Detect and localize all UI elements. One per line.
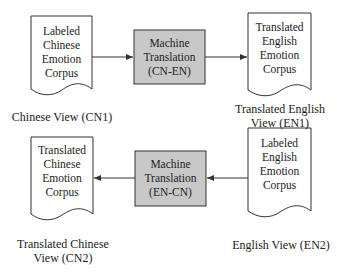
- node-text-line: Emotion: [31, 52, 92, 66]
- node-text-line: Emotion: [31, 171, 93, 185]
- node-text-line: Emotion: [248, 48, 311, 62]
- node-text-line: Labeled: [248, 136, 311, 150]
- caption-translated-chinese-view-cn2: Translated Chinese View (CN2): [4, 237, 122, 265]
- node-text-line: Corpus: [248, 62, 311, 76]
- caption-english-view-en2: English View (EN2): [226, 238, 336, 252]
- node-text-line: Corpus: [31, 66, 92, 80]
- node-text-line: Emotion: [248, 164, 311, 178]
- node-machine-translation-en-cn: Machine Translation (EN-CN): [135, 157, 206, 199]
- node-labeled-english-corpus: Labeled English Emotion Corpus: [248, 136, 311, 192]
- node-text-line: Translated: [31, 143, 93, 157]
- node-labeled-chinese-corpus: Labeled Chinese Emotion Corpus: [31, 24, 92, 80]
- node-text-line: Translation: [135, 171, 206, 185]
- node-translated-english-corpus: Translated English Emotion Corpus: [248, 20, 311, 76]
- caption-line: View (CN2): [4, 251, 122, 265]
- node-text-line: Machine: [135, 157, 206, 171]
- node-machine-translation-cn-en: Machine Translation (CN-EN): [134, 36, 205, 78]
- node-text-line: Translation: [134, 50, 205, 64]
- node-text-line: Chinese: [31, 157, 93, 171]
- caption-line: Chinese View (CN1): [0, 110, 124, 124]
- caption-line: Translated English: [224, 102, 336, 116]
- caption-line: English View (EN2): [226, 238, 336, 252]
- caption-line: Translated Chinese: [4, 237, 122, 251]
- caption-chinese-view-cn1: Chinese View (CN1): [0, 110, 124, 124]
- node-text-line: (EN-CN): [135, 185, 206, 199]
- node-text-line: English: [248, 150, 311, 164]
- node-text-line: Translated: [248, 20, 311, 34]
- node-text-line: Corpus: [31, 185, 93, 199]
- node-text-line: Machine: [134, 36, 205, 50]
- node-translated-chinese-corpus: Translated Chinese Emotion Corpus: [31, 143, 93, 199]
- caption-line: View (EN1): [224, 116, 336, 130]
- node-text-line: Corpus: [248, 178, 311, 192]
- node-text-line: English: [248, 34, 311, 48]
- node-text-line: Labeled: [31, 24, 92, 38]
- node-text-line: Chinese: [31, 38, 92, 52]
- caption-translated-english-view-en1: Translated English View (EN1): [224, 102, 336, 130]
- node-text-line: (CN-EN): [134, 64, 205, 78]
